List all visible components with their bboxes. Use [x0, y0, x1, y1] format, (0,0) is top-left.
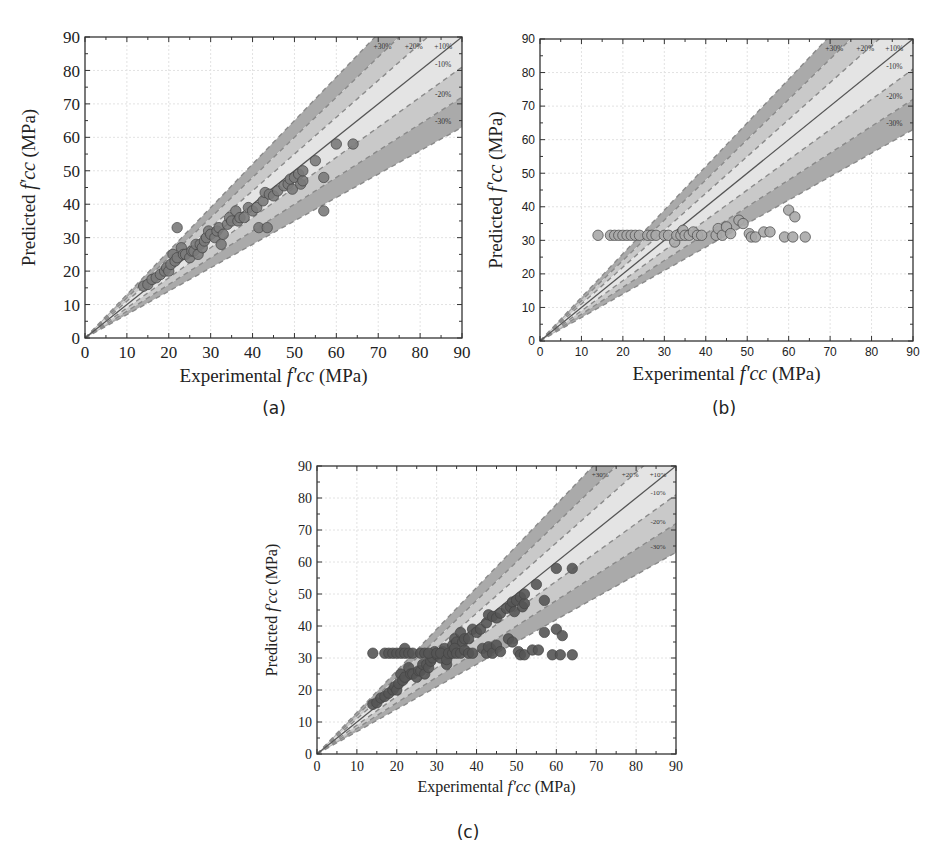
x-tick-label: 30	[430, 759, 444, 774]
plot-area: +30%+20%+10%-10%-20%-30%0102030405060708…	[262, 0, 937, 796]
band-label: +30%	[592, 471, 609, 479]
band-label: +20%	[622, 471, 639, 479]
data-point	[368, 648, 378, 658]
band-label: -10%	[650, 489, 665, 497]
band-label: +10%	[650, 471, 667, 479]
x-tick-label: 40	[470, 759, 484, 774]
x-tick-label: 90	[669, 759, 683, 774]
data-point	[567, 650, 577, 660]
scatter-plot-c: +30%+20%+10%-10%-20%-30%0102030405060708…	[0, 0, 937, 861]
band-label: -20%	[650, 518, 665, 526]
data-point	[555, 650, 565, 660]
data-point	[531, 579, 541, 589]
data-point	[519, 598, 529, 608]
y-tick-label: 70	[298, 523, 312, 538]
y-tick-label: 40	[298, 619, 312, 634]
data-point	[467, 648, 477, 658]
data-point	[533, 645, 543, 655]
data-point	[567, 563, 577, 573]
y-tick-label: 50	[298, 587, 312, 602]
x-tick-label: 60	[549, 759, 563, 774]
y-tick-label: 90	[298, 459, 312, 474]
y-axis-label: Predicted f'cc (MPa)	[262, 544, 281, 676]
x-tick-label: 10	[350, 759, 364, 774]
y-tick-label: 10	[298, 715, 312, 730]
y-tick-label: 30	[298, 651, 312, 666]
data-point	[539, 595, 549, 605]
band-label: -30%	[650, 543, 665, 551]
data-point	[539, 627, 549, 637]
x-tick-label: 0	[314, 759, 321, 774]
x-tick-label: 20	[390, 759, 404, 774]
y-tick-label: 0	[305, 747, 312, 762]
y-tick-label: 60	[298, 555, 312, 570]
x-tick-label: 80	[629, 759, 643, 774]
data-point	[495, 646, 505, 656]
caption-c: (c)	[448, 822, 488, 842]
x-tick-label: 50	[509, 759, 523, 774]
x-axis-label: Experimental f'cc (MPa)	[417, 777, 575, 796]
data-point	[507, 637, 517, 647]
x-tick-label: 70	[589, 759, 603, 774]
data-point	[557, 630, 567, 640]
y-tick-label: 80	[298, 491, 312, 506]
data-point	[519, 589, 529, 599]
data-point	[551, 563, 561, 573]
y-tick-label: 20	[298, 683, 312, 698]
